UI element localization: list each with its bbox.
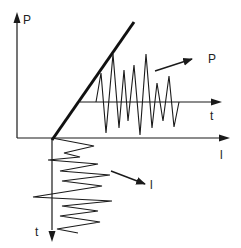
l-signal-label: l (150, 178, 153, 192)
t-axis-upper-label: t (210, 109, 214, 123)
l-axis-label: l (220, 148, 223, 162)
diagram-canvas: P l t t P l (0, 0, 241, 248)
l-signal-arrow-icon (111, 171, 145, 184)
load-displacement-diagram: P l t t P l (0, 0, 241, 248)
load-line (52, 22, 134, 140)
load-signal-zigzag (96, 54, 179, 135)
p-axis-arrow-icon (14, 12, 21, 23)
t-axis-upper-arrow-icon (211, 99, 222, 106)
p-signal-arrow-icon (155, 59, 192, 71)
p-axis-label: P (23, 13, 31, 27)
l-axis-arrow-icon (219, 135, 230, 142)
t-axis-lower-arrow-icon (49, 231, 56, 242)
t-axis-lower-label: t (35, 225, 39, 239)
p-signal-label: P (208, 52, 216, 66)
displacement-signal-zigzag (33, 138, 112, 233)
